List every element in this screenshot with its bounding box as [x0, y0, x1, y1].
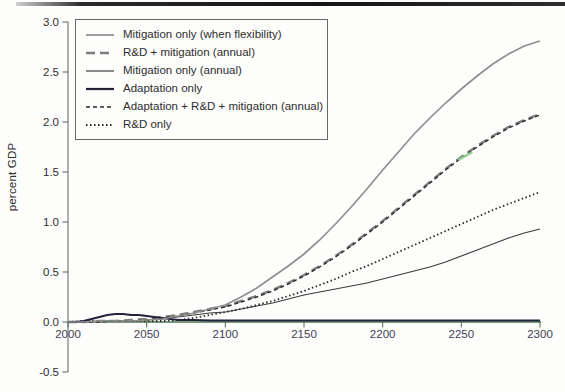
y-tick-label: -0.5	[39, 366, 59, 378]
y-tick-label: 2.5	[43, 66, 59, 78]
series-rd-mitigation	[68, 114, 540, 322]
legend-item: R&D + mitigation (annual)	[85, 45, 318, 61]
legend-item: R&D only	[85, 117, 318, 133]
legend-swatch-line-icon	[85, 103, 115, 111]
legend-label: Adaptation only	[123, 83, 202, 95]
legend: Mitigation only (when flexibility)R&D + …	[75, 19, 328, 140]
legend-item: Mitigation only (when flexibility)	[85, 27, 318, 43]
y-tick-label: 3.0	[43, 16, 59, 28]
x-tick-label: 2150	[291, 328, 317, 340]
series-adaptation-rd-mitigation	[68, 115, 540, 322]
legend-label: R&D only	[123, 119, 172, 131]
y-tick-label: 1.5	[43, 166, 59, 178]
x-tick-label: 2200	[370, 328, 396, 340]
figure: percent GDP -0.50.00.51.01.52.02.53.0200…	[0, 0, 565, 392]
legend-item: Adaptation + R&D + mitigation (annual)	[85, 99, 318, 115]
x-tick-label: 2000	[55, 328, 81, 340]
legend-label: Mitigation only (annual)	[123, 65, 242, 77]
series-rd-only	[68, 192, 540, 322]
legend-label: Mitigation only (when flexibility)	[123, 29, 282, 41]
legend-swatch-line-icon	[85, 85, 115, 93]
x-tick-label: 2050	[134, 328, 160, 340]
legend-label: R&D + mitigation (annual)	[123, 47, 255, 59]
legend-swatch-line-icon	[85, 121, 115, 129]
y-tick-label: 2.0	[43, 116, 59, 128]
legend-item: Adaptation only	[85, 81, 318, 97]
scan-green-segment	[458, 152, 472, 160]
y-tick-label: 0.5	[43, 266, 59, 278]
legend-swatch-line-icon	[85, 31, 115, 39]
legend-swatch-line-icon	[85, 67, 115, 75]
legend-item: Mitigation only (annual)	[85, 63, 318, 79]
legend-swatch-line-icon	[85, 49, 115, 57]
legend-label: Adaptation + R&D + mitigation (annual)	[123, 101, 323, 113]
x-tick-label: 2250	[449, 328, 475, 340]
y-tick-label: 1.0	[43, 216, 59, 228]
x-tick-label: 2100	[213, 328, 239, 340]
y-tick-label: 0.0	[43, 316, 59, 328]
x-tick-label: 2300	[527, 328, 553, 340]
